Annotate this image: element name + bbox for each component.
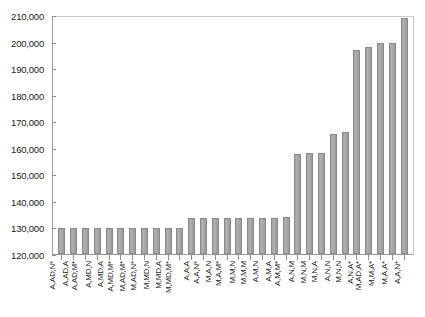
x-axis-tick-label: M,N,A xyxy=(311,261,320,282)
x-axis-tick-slot xyxy=(280,255,292,260)
x-axis-tick-label: A,M,A xyxy=(264,261,273,282)
x-axis-tick-slot xyxy=(56,255,68,260)
x-axis-tick-slot xyxy=(174,255,186,260)
bar[interactable] xyxy=(318,153,325,254)
x-axis-tick-mark xyxy=(356,255,357,260)
x-axis-tick-slot xyxy=(115,255,127,260)
bar[interactable] xyxy=(188,218,195,254)
bar[interactable] xyxy=(165,228,172,254)
bar[interactable] xyxy=(271,218,278,254)
bars-layer xyxy=(53,17,413,254)
bar-slot xyxy=(386,17,398,254)
y-axis-tick-mark xyxy=(52,149,56,150)
bar[interactable] xyxy=(176,228,183,254)
x-axis-tick-mark xyxy=(345,255,346,260)
bar-slot xyxy=(363,17,375,254)
bar[interactable] xyxy=(106,228,113,254)
x-axis-tick-slot xyxy=(198,255,210,260)
x-axis-tick-slot xyxy=(233,255,245,260)
bar[interactable] xyxy=(212,218,219,254)
bar[interactable] xyxy=(94,228,101,254)
bar-slot xyxy=(327,17,339,254)
x-axis-tick-label: A,M,N xyxy=(252,261,261,282)
x-axis-tick-mark xyxy=(61,255,62,260)
bar-slot xyxy=(257,17,269,254)
x-axis-tick-label: M,M,N xyxy=(228,261,237,284)
x-axis-tick-slot xyxy=(375,255,387,260)
y-axis-tick-mark xyxy=(52,43,56,44)
x-axis-tick-mark xyxy=(203,255,204,260)
x-axis-tick-mark xyxy=(73,255,74,260)
x-axis-tick-slot xyxy=(91,255,103,260)
x-axis-tick-mark xyxy=(227,255,228,260)
bar[interactable] xyxy=(129,228,136,254)
x-axis-tick-mark xyxy=(333,255,334,260)
bar[interactable] xyxy=(247,218,254,254)
bar[interactable] xyxy=(235,218,242,254)
x-axis-tick-slot xyxy=(245,255,257,260)
x-axis-tick-mark xyxy=(297,255,298,260)
y-axis-tick-label: 160,000 xyxy=(11,143,44,154)
x-axis-tick-slot xyxy=(103,255,115,260)
bar-slot xyxy=(80,17,92,254)
x-axis-tick-label: A,AD,N* xyxy=(48,261,57,289)
bar[interactable] xyxy=(330,134,337,254)
x-axis-tick-slot xyxy=(386,255,398,260)
bar[interactable] xyxy=(306,153,313,254)
y-axis: 210,000200,000190,000180,000170,000160,0… xyxy=(0,16,50,255)
x-axis-tick-mark xyxy=(144,255,145,260)
bar[interactable] xyxy=(70,228,77,254)
bar[interactable] xyxy=(353,50,360,254)
y-axis-tick-mark xyxy=(52,16,56,17)
x-axis-tick-mark xyxy=(85,255,86,260)
bar[interactable] xyxy=(389,43,396,254)
x-axis-label-slot: A,A,N* xyxy=(398,261,410,317)
bar-slot xyxy=(150,17,162,254)
x-axis-tick-mark xyxy=(215,255,216,260)
bar-slot xyxy=(209,17,221,254)
bar[interactable] xyxy=(401,18,408,254)
y-axis-tick-label: 190,000 xyxy=(11,64,44,75)
bar[interactable] xyxy=(224,218,231,254)
x-axis-tick-label: M,AD,M* xyxy=(117,261,126,292)
bar-slot xyxy=(398,17,410,254)
y-axis-tick-mark xyxy=(52,122,56,123)
x-axis-tick-slot xyxy=(80,255,92,260)
y-axis-tick-label: 130,000 xyxy=(11,223,44,234)
bar-slot xyxy=(245,17,257,254)
x-axis-tick-mark xyxy=(238,255,239,260)
x-axis-tick-label: A,AD,M* xyxy=(71,261,80,290)
bar[interactable] xyxy=(200,218,207,254)
bar-slot xyxy=(56,17,68,254)
bar-slot xyxy=(91,17,103,254)
y-axis-tick-mark xyxy=(52,175,56,176)
y-axis-tick-label: 150,000 xyxy=(11,170,44,181)
bar[interactable] xyxy=(283,217,290,254)
bar[interactable] xyxy=(259,218,266,254)
x-axis-tick-slot xyxy=(292,255,304,260)
x-axis-tick-mark xyxy=(132,255,133,260)
bar[interactable] xyxy=(377,43,384,254)
x-axis-ticks xyxy=(53,255,413,260)
x-axis-tick-mark xyxy=(97,255,98,260)
x-axis-tick-label: M,N,M xyxy=(298,261,307,284)
y-axis-tick-mark xyxy=(52,96,56,97)
bar[interactable] xyxy=(365,47,372,255)
bar[interactable] xyxy=(58,228,65,254)
bar[interactable] xyxy=(153,228,160,254)
bar[interactable] xyxy=(294,154,301,254)
bar[interactable] xyxy=(82,228,89,254)
x-axis-tick-label: A,N,M xyxy=(287,261,296,282)
x-axis-tick-slot xyxy=(127,255,139,260)
bar[interactable] xyxy=(117,228,124,254)
bar-slot xyxy=(186,17,198,254)
bar-slot xyxy=(280,17,292,254)
x-axis-tick-slot xyxy=(304,255,316,260)
x-axis-tick-mark xyxy=(380,255,381,260)
x-axis-tick-label: M,MD,N xyxy=(142,261,151,289)
x-axis-tick-mark xyxy=(109,255,110,260)
x-axis-tick-slot xyxy=(162,255,174,260)
bar[interactable] xyxy=(342,132,349,254)
x-axis-tick-label: M,M,M xyxy=(239,261,248,284)
bar[interactable] xyxy=(141,228,148,254)
